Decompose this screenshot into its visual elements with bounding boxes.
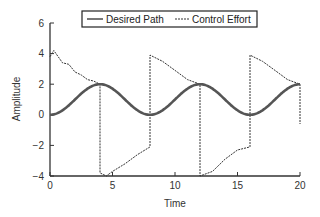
x-axis-label: Time xyxy=(164,198,186,209)
legend-label-control-effort: Control Effort xyxy=(192,14,251,25)
y-tick-label: 4 xyxy=(38,48,44,59)
legend: Desired Path Control Effort xyxy=(82,11,257,27)
y-tick-label: −2 xyxy=(33,140,45,151)
x-tick-label: 10 xyxy=(169,180,181,191)
y-tick-label: 0 xyxy=(38,109,44,120)
x-tick-label: 20 xyxy=(294,180,306,191)
y-tick-label: 6 xyxy=(38,18,44,29)
chart: −4−20246 05101520 Time Amplitude Desired… xyxy=(0,0,320,217)
legend-label-desired-path: Desired Path xyxy=(106,14,164,25)
x-tick-label: 5 xyxy=(110,180,116,191)
desired-path-line xyxy=(50,84,300,115)
x-ticks: 05101520 xyxy=(47,172,306,191)
x-tick-label: 15 xyxy=(232,180,244,191)
y-tick-label: 2 xyxy=(38,79,44,90)
y-tick-label: −4 xyxy=(33,171,45,182)
y-ticks: −4−20246 xyxy=(33,18,54,182)
y-axis-label: Amplitude xyxy=(11,76,22,121)
x-tick-label: 0 xyxy=(47,180,53,191)
control-effort-line xyxy=(50,51,300,177)
